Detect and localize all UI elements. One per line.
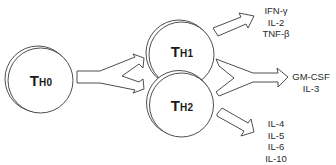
forked-arrow-th0 [77,54,144,93]
th2-label-main: T [171,97,180,114]
th2-label: TH2 [171,98,193,114]
cytokine-il-2: IL-2 [262,17,289,29]
cytokine-tnf-beta: TNF-β [262,28,289,40]
th2-cytokine-list: IL-4 IL-5 IL-6 IL-10 [265,118,287,164]
cytokine-il-5: IL-5 [265,130,287,142]
merging-arrow-shared [216,59,288,96]
cytokine-ifn-gamma: IFN-γ [262,5,289,17]
cytokine-gm-csf: GM-CSF [292,71,329,83]
arrow-th2-cytokines [217,108,254,136]
th2-label-sub: H2 [180,102,193,113]
diagram-canvas: TH0 TH1 TH2 IFN-γ IL-2 TNF-β GM-CSF IL-3… [0,0,336,165]
cytokine-il-10: IL-10 [265,153,287,165]
th1-label: TH1 [171,44,193,60]
th0-label-sub: H0 [39,77,52,88]
th1-cytokine-list: IFN-γ IL-2 TNF-β [262,5,289,40]
cytokine-il-6: IL-6 [265,141,287,153]
cytokine-il-3: IL-3 [292,83,329,95]
shared-cytokine-list: GM-CSF IL-3 [292,71,329,94]
cytokine-il-4: IL-4 [265,118,287,130]
th0-label-main: T [30,72,39,89]
th0-label: TH0 [30,73,52,89]
th1-label-main: T [171,43,180,60]
arrow-th1-cytokines [213,13,254,36]
th1-label-sub: H1 [180,48,193,59]
